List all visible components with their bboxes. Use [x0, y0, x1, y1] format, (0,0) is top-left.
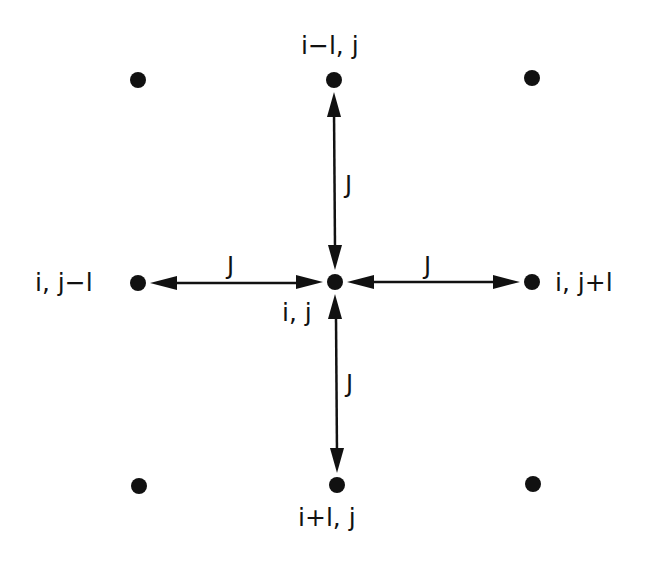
coupling-label-down: J — [346, 372, 353, 396]
label-node-up: i−l, j — [301, 33, 359, 58]
node-corner-bottom-left — [131, 478, 147, 494]
coupling-arrow-right — [347, 275, 520, 289]
label-node-center: i, j — [282, 300, 312, 325]
node-down — [329, 477, 345, 493]
node-left — [130, 275, 146, 291]
node-corner-top-right — [524, 70, 540, 86]
coupling-arrow-up — [327, 92, 342, 270]
node-corner-top-left — [130, 72, 146, 88]
label-node-right: i, j+l — [555, 270, 613, 295]
coupling-label-right: J — [424, 254, 431, 278]
coupling-label-left: J — [227, 254, 234, 278]
coupling-label-up: J — [345, 173, 352, 197]
node-right — [524, 274, 540, 290]
node-corner-bottom-right — [525, 476, 541, 492]
coupling-arrow-down — [328, 294, 344, 473]
coupling-arrow-left — [150, 275, 323, 290]
node-center — [327, 274, 343, 290]
label-node-down: i+l, j — [298, 505, 356, 530]
label-node-left: i, j−l — [35, 270, 93, 295]
node-up — [326, 72, 342, 88]
